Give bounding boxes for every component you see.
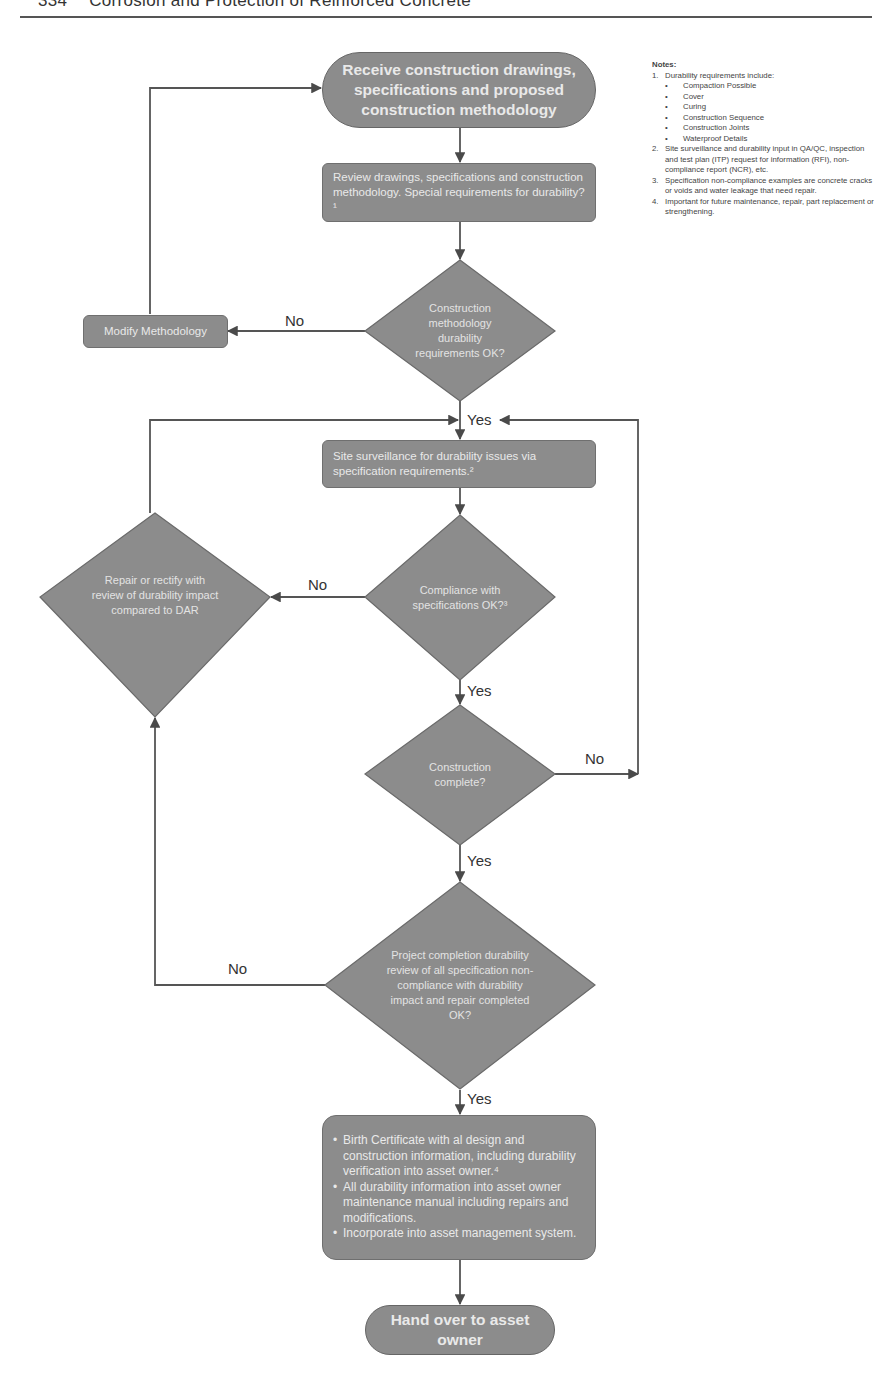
note-subitem: •Construction Joints [652, 123, 874, 134]
start-terminator: Receive construction drawings, specifica… [322, 52, 596, 128]
review-text: Review drawings, specifications and cons… [333, 170, 585, 215]
end-terminator: Hand over to asset owner [365, 1305, 555, 1355]
handover-item: All durability information into asset ow… [333, 1180, 585, 1227]
decision-methodology: Construction methodology durability requ… [405, 285, 515, 377]
note-subitem: •Waterproof Details [652, 134, 874, 145]
decision-complete: Construction complete? [410, 755, 510, 795]
label-yes-project: Yes [467, 1090, 491, 1107]
label-no-methodology: No [285, 312, 304, 329]
handover-item: Birth Certificate with al design and con… [333, 1133, 585, 1180]
decision-project-text: Project completion durability review of … [385, 948, 535, 1023]
label-no-complete: No [585, 750, 604, 767]
decision-compliance-text: Compliance with specifications OK?³ [410, 583, 510, 613]
label-yes-compliance: Yes [467, 682, 491, 699]
note-item: 2. Site surveillance and durability inpu… [652, 144, 874, 176]
review-process-box: Review drawings, specifications and cons… [322, 163, 596, 222]
note-subitem: •Cover [652, 92, 874, 103]
handover-documents-box: Birth Certificate with al design and con… [322, 1115, 596, 1260]
modify-text: Modify Methodology [104, 324, 207, 339]
note-subitem: •Construction Sequence [652, 113, 874, 124]
decision-compliance: Compliance with specifications OK?³ [410, 555, 510, 640]
handover-item: Incorporate into asset management system… [333, 1226, 585, 1242]
note-item: 4. Important for future maintenance, rep… [652, 197, 874, 218]
end-text: Hand over to asset owner [386, 1310, 534, 1350]
decision-complete-text: Construction complete? [410, 760, 510, 790]
note-subitem: •Curing [652, 102, 874, 113]
notes-panel: Notes: 1. Durability requirements includ… [652, 60, 874, 218]
note-subitem: •Compaction Possible [652, 81, 874, 92]
repair-decision: Repair or rectify with review of durabil… [90, 540, 220, 650]
notes-title: Notes: [652, 60, 874, 71]
decision-methodology-text: Construction methodology durability requ… [405, 301, 515, 361]
label-yes-methodology: Yes [467, 411, 491, 428]
decision-project: Project completion durability review of … [385, 925, 535, 1045]
surveillance-text: Site surveillance for durability issues … [333, 449, 585, 479]
note-item: 3. Specification non-compliance examples… [652, 176, 874, 197]
label-no-compliance: No [308, 576, 327, 593]
handover-documents-list: Birth Certificate with al design and con… [333, 1133, 585, 1242]
label-yes-complete: Yes [467, 852, 491, 869]
surveillance-process-box: Site surveillance for durability issues … [322, 440, 596, 488]
label-no-project: No [228, 960, 247, 977]
repair-text: Repair or rectify with review of durabil… [90, 573, 220, 618]
note-item: 1. Durability requirements include: [652, 71, 874, 82]
modify-methodology-box: Modify Methodology [83, 315, 228, 348]
start-text: Receive construction drawings, specifica… [341, 60, 577, 120]
